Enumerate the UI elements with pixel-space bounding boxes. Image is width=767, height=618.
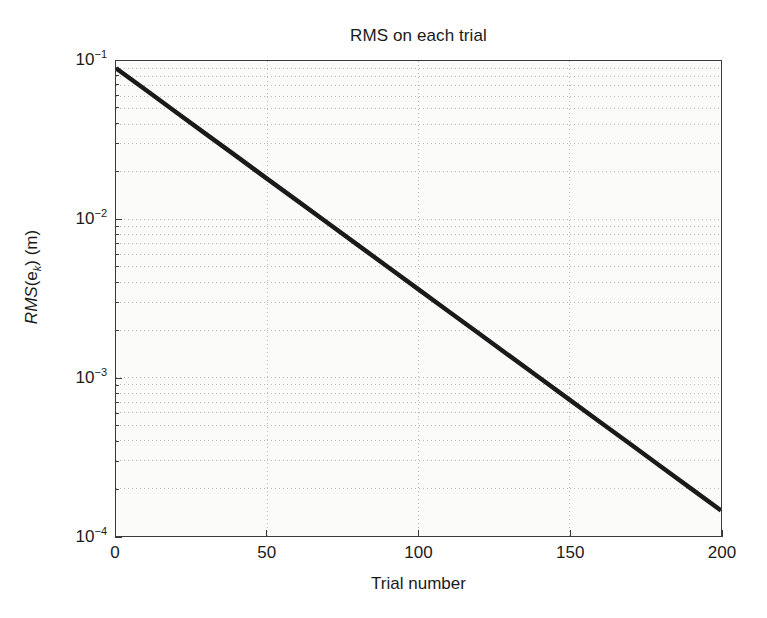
y-tick-mark — [115, 234, 119, 235]
x-tick-mark — [570, 530, 571, 537]
x-tick-label: 50 — [257, 543, 276, 563]
x-tick-mark — [266, 530, 267, 537]
y-tick-label: 10−1 — [45, 50, 107, 70]
y-tick-mark — [115, 393, 119, 394]
y-tick-mark — [115, 84, 119, 85]
figure-page: RMS on each trial 050100150200 10−110−21… — [0, 0, 767, 618]
y-tick-mark — [115, 330, 119, 331]
y-tick-label: 10−3 — [45, 368, 107, 388]
x-tick-mark — [722, 530, 723, 537]
y-tick-mark — [115, 266, 119, 267]
y-axis-label-suffix: ) (m) — [22, 230, 41, 266]
y-tick-mark — [115, 402, 119, 403]
y-tick-label: 10−2 — [45, 209, 107, 229]
y-tick-mark — [115, 107, 119, 108]
x-tick-label: 100 — [404, 543, 432, 563]
y-tick-mark — [115, 378, 122, 379]
y-tick-mark — [115, 60, 122, 61]
y-tick-mark — [115, 67, 119, 68]
y-tick-mark — [115, 95, 119, 96]
y-axis-label: RMS(ek) (m) — [22, 167, 42, 387]
y-tick-mark — [115, 226, 119, 227]
y-tick-mark — [115, 537, 122, 538]
y-tick-mark — [115, 75, 119, 76]
y-tick-mark — [115, 282, 119, 283]
y-tick-mark — [115, 489, 119, 490]
y-tick-mark — [115, 441, 119, 442]
y-tick-mark — [115, 425, 119, 426]
y-tick-mark — [115, 461, 119, 462]
y-tick-mark — [115, 413, 119, 414]
y-tick-mark — [115, 123, 119, 124]
chart-figure: RMS on each trial 050100150200 10−110−21… — [0, 0, 767, 618]
y-tick-mark — [115, 219, 122, 220]
y-tick-mark — [115, 143, 119, 144]
y-tick-mantissa: 10 — [76, 209, 95, 228]
y-tick-mantissa: 10 — [76, 527, 95, 546]
chart-title: RMS on each trial — [115, 26, 722, 46]
y-axis-label-open: (e — [22, 271, 41, 286]
x-tick-label: 0 — [110, 543, 119, 563]
data-series-rms — [116, 61, 721, 536]
y-tick-exponent: −1 — [94, 48, 107, 60]
x-tick-mark — [418, 530, 419, 537]
y-axis-label-subscript: k — [31, 266, 43, 272]
x-tick-label: 150 — [556, 543, 584, 563]
y-tick-mark — [115, 254, 119, 255]
y-tick-mark — [115, 302, 119, 303]
y-tick-mark — [115, 385, 119, 386]
y-tick-exponent: −3 — [94, 366, 107, 378]
y-tick-mark — [115, 171, 119, 172]
y-axis-label-italic: RMS — [22, 286, 41, 324]
y-tick-mantissa: 10 — [76, 368, 95, 387]
y-tick-exponent: −4 — [94, 525, 107, 537]
x-axis-label: Trial number — [115, 574, 722, 594]
plot-area — [115, 60, 722, 537]
y-tick-mantissa: 10 — [76, 50, 95, 69]
x-tick-label: 200 — [708, 543, 736, 563]
y-tick-mark — [115, 243, 119, 244]
y-tick-label: 10−4 — [45, 527, 107, 547]
y-tick-exponent: −2 — [94, 207, 107, 219]
